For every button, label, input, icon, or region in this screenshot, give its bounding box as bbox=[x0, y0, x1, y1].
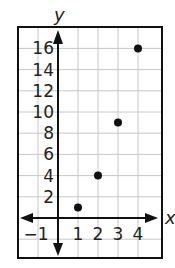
y-tick-label: 14 bbox=[32, 60, 54, 80]
scatter-chart: y x 246810121416 −11234 bbox=[0, 0, 175, 268]
y-tick-label: 4 bbox=[43, 166, 54, 186]
y-axis-label: y bbox=[53, 4, 65, 25]
x-axis-arrow-left-icon bbox=[20, 213, 33, 223]
y-tick-label: 8 bbox=[43, 123, 54, 143]
data-point bbox=[134, 44, 142, 52]
data-point bbox=[94, 172, 102, 180]
y-tick-label: 2 bbox=[43, 187, 54, 207]
y-tick-label: 12 bbox=[32, 81, 54, 101]
x-axis-label: x bbox=[164, 207, 175, 228]
y-tick-label: 16 bbox=[32, 38, 54, 58]
x-tick-label: 3 bbox=[113, 224, 124, 244]
y-axis-arrow-up-icon bbox=[53, 30, 63, 44]
x-tick-label: 1 bbox=[73, 224, 84, 244]
data-point bbox=[114, 119, 122, 127]
y-tick-labels: 246810121416 bbox=[32, 38, 54, 206]
y-axis-arrow-down-icon bbox=[53, 243, 63, 256]
x-axis-arrow-right-icon bbox=[145, 213, 158, 223]
x-tick-label: 4 bbox=[133, 224, 144, 244]
y-tick-label: 10 bbox=[32, 102, 54, 122]
data-point bbox=[74, 203, 82, 211]
x-tick-label: 2 bbox=[93, 224, 104, 244]
y-tick-label: 6 bbox=[43, 144, 54, 164]
x-tick-label: −1 bbox=[23, 224, 48, 244]
x-tick-labels: −11234 bbox=[23, 224, 143, 244]
